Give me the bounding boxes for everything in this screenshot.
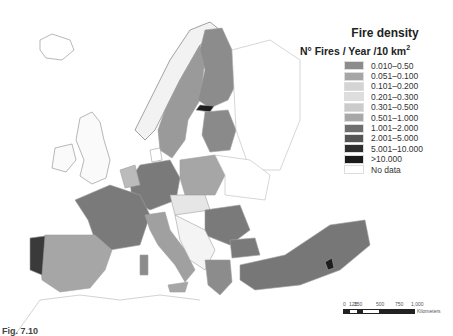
legend-item: 5.001–10.000 (344, 144, 450, 154)
legend-item: 0.051–0.100 (344, 71, 450, 81)
legend-swatch (344, 82, 364, 91)
legend-item: 0.010–0.50 (344, 61, 450, 71)
legend-item: 2.001–5.000 (344, 133, 450, 143)
legend-item: 1.001–2.000 (344, 123, 450, 133)
legend-label: No data (371, 165, 401, 175)
legend-item: No data (344, 164, 450, 174)
scale-ticks: 01252505007501,000 (343, 301, 453, 308)
legend-label: 0.010–0.50 (371, 61, 414, 71)
scale-bar-graphic (343, 309, 415, 314)
legend-item: 0.301–0.500 (344, 102, 450, 112)
legend-item: 0.101–0.200 (344, 81, 450, 91)
legend-item: >10.000 (344, 154, 450, 164)
legend-swatch (344, 61, 364, 70)
legend-swatch (344, 103, 364, 112)
legend-item: 0.501–1.000 (344, 112, 450, 122)
legend-title: Fire density (320, 26, 450, 40)
legend-swatch (344, 155, 364, 164)
legend-swatch (344, 72, 364, 81)
legend-swatch (344, 92, 364, 101)
bulgaria (230, 238, 260, 258)
sicily (168, 282, 188, 292)
legend-label: 0.201–0.300 (371, 92, 418, 102)
scale-tick: 500 (376, 301, 384, 307)
legend-swatch (344, 124, 364, 133)
legend-label: 0.301–0.500 (371, 102, 418, 112)
legend-label: 2.001–5.000 (371, 133, 418, 143)
scale-tick: 250 (354, 301, 362, 307)
legend: Fire density N° Fires / Year /10 km2 0.0… (300, 26, 450, 175)
figure-caption: Fig. 7.10 (2, 326, 38, 336)
scale-bar: 01252505007501,000 Kilometers (343, 301, 453, 314)
baltics (202, 110, 236, 152)
iceland (40, 34, 74, 60)
scale-unit: Kilometers (417, 308, 441, 314)
great-britain (76, 112, 110, 184)
ireland (52, 144, 76, 172)
scale-tick: 1,000 (411, 301, 424, 307)
legend-item: 0.201–0.300 (344, 92, 450, 102)
legend-label: >10.000 (371, 154, 402, 164)
portugal (30, 236, 45, 275)
legend-label: 1.001–2.000 (371, 123, 418, 133)
scale-tick: 750 (395, 301, 403, 307)
legend-swatch (344, 165, 364, 174)
greece (205, 260, 232, 295)
legend-label: 0.051–0.100 (371, 71, 418, 81)
legend-unit-text: N° Fires / Year /10 km (300, 45, 406, 57)
legend-items: 0.010–0.500.051–0.1000.101–0.2000.201–0.… (344, 61, 450, 175)
scale-tick: 0 (343, 301, 346, 307)
legend-swatch (344, 113, 364, 122)
sardinia (140, 255, 148, 275)
legend-label: 0.101–0.200 (371, 81, 418, 91)
legend-unit-superscript: 2 (406, 44, 410, 51)
spain (40, 235, 112, 292)
legend-swatch (344, 144, 364, 153)
czech-austria (170, 195, 210, 215)
legend-unit: N° Fires / Year /10 km2 (300, 44, 450, 57)
legend-label: 0.501–1.000 (371, 113, 418, 123)
legend-swatch (344, 134, 364, 143)
legend-label: 5.001–10.000 (371, 144, 423, 154)
